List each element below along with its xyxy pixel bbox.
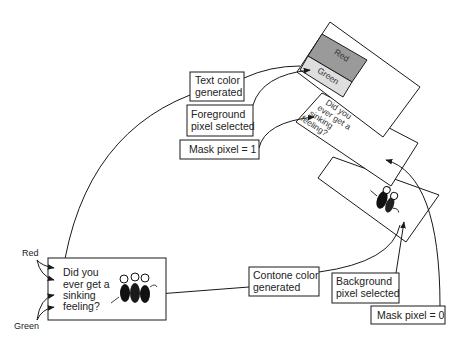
svg-text:Mask pixel = 0: Mask pixel = 0 [377,309,445,321]
mask-pixel-1-label: Mask pixel = 1 [180,140,259,159]
mask-pixel-0-label: Mask pixel = 0 [371,306,445,324]
red-input-label: Red [22,248,39,258]
svg-text:generated: generated [195,86,242,98]
svg-text:Text color: Text color [195,74,240,86]
svg-text:Contone color: Contone color [253,269,319,281]
foreground-pixel-selected-label: Foreground pixel selected [187,105,255,136]
svg-text:pixel selected: pixel selected [191,120,255,132]
contone-to-result-connector [158,287,249,294]
mask-compositing-diagram: Did you ever get a sinking feeling? Red … [0,0,462,347]
green-input-label: Green [14,321,39,331]
svg-text:Background: Background [336,275,392,287]
background-pixel-selected-label: Background pixel selected [332,273,400,303]
result-text-line: feeling? [63,300,100,312]
result-image-box: Did you ever get a sinking feeling? [48,258,166,320]
svg-text:Mask pixel = 1: Mask pixel = 1 [189,143,257,155]
text-color-generated-label: Text color generated [190,72,244,101]
svg-text:generated: generated [253,281,300,293]
contone-to-background-connector [319,225,400,272]
text-color-connector [244,66,300,78]
contone-color-generated-label: Contone color generated [249,267,319,296]
svg-text:Foreground: Foreground [191,108,245,120]
result-text-line: Did you [63,266,99,278]
svg-text:pixel selected: pixel selected [336,287,400,299]
